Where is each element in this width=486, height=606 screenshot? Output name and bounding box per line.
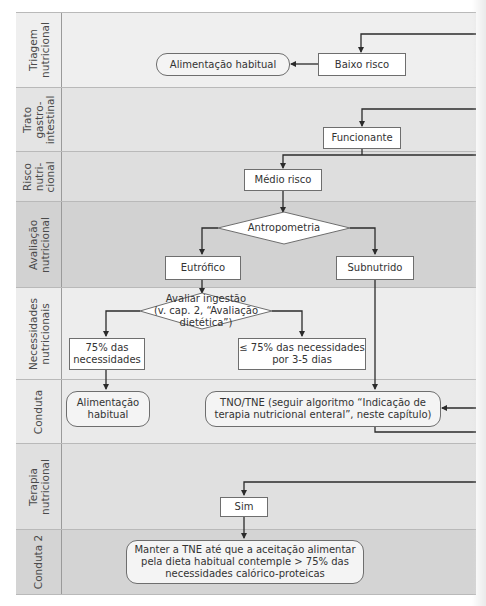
node-medio-risco: Médio risco	[244, 169, 322, 191]
node-manter-tne: Manter a TNE até que a aceitação aliment…	[126, 540, 364, 584]
node-tno-tne: TNO/TNE (seguir algoritmo “Indicação de …	[205, 391, 441, 427]
page-edge-shadow	[472, 0, 486, 606]
avaliar-ingestao-label: Avaliar ingestão (v. cap. 2, “Avaliação …	[140, 293, 272, 329]
node-subnutrido: Subnutrido	[336, 256, 414, 280]
node-alimentacao-habitual: Alimentação habitual	[156, 53, 290, 76]
node-baixo-risco: Baixo risco	[318, 53, 406, 76]
nutrition-flowchart: Triagem nutricional Trato gastro- intest…	[0, 0, 486, 606]
node-eutrofico: Eutrófico	[165, 256, 241, 280]
node-75-necessidades: 75% das necessidades	[69, 338, 145, 370]
antropometria-label: Antropometria	[218, 221, 350, 235]
node-funcionante: Funcionante	[323, 127, 401, 149]
node-le75-necessidades: ≤ 75% das necessidades por 3-5 dias	[238, 338, 366, 370]
node-sim: Sim	[220, 497, 268, 517]
node-alimentacao-habitual-2: Alimentação habitual	[66, 391, 150, 427]
